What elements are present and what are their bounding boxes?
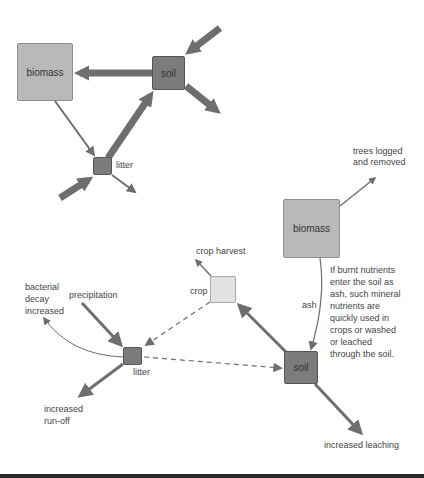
bottom-biomass-label: biomass	[293, 223, 330, 234]
arrow-bacterial-decay	[44, 318, 123, 357]
precipitation-label: precipitation	[69, 290, 118, 301]
arrow-crop-to-litter	[146, 302, 210, 345]
bottom-border-bar	[0, 474, 424, 478]
arrow-trees-logged	[340, 178, 375, 206]
burnt-nutrients-note: If burnt nutrients enter the soil as ash…	[330, 264, 401, 360]
bottom-biomass-box: biomass	[283, 199, 340, 258]
bottom-soil-label: soil	[293, 362, 308, 373]
bottom-soil-box: soil	[284, 351, 318, 384]
crop-box	[210, 276, 236, 303]
run-off-label: increased run-off	[44, 403, 83, 427]
arrow-biomass-to-litter	[55, 101, 94, 155]
arrow-leaching	[315, 384, 361, 433]
arrow-output-from-litter	[112, 175, 135, 192]
top-soil-label: soil	[161, 68, 176, 79]
increased-leaching-label: increased leaching	[324, 440, 399, 451]
arrow-litter-to-soil	[108, 96, 150, 158]
arrow-run-off	[80, 364, 123, 396]
bottom-litter-label: litter	[133, 367, 150, 378]
arrow-output-from-soil	[186, 86, 216, 110]
top-soil-box: soil	[152, 56, 185, 90]
crop-label: crop	[190, 286, 208, 297]
bottom-litter-box	[123, 347, 142, 365]
crop-harvest-label: crop harvest	[196, 246, 246, 257]
arrow-precipitation	[82, 303, 121, 345]
top-litter-box	[93, 157, 112, 175]
top-biomass-label: biomass	[26, 67, 63, 78]
arrow-soil-to-crop	[239, 305, 286, 352]
bacterial-decay-label: bacterial decay increased	[25, 281, 64, 317]
top-litter-label: litter	[116, 160, 133, 171]
top-biomass-box: biomass	[17, 43, 73, 101]
arrow-litter-to-soil-dashed	[144, 357, 281, 368]
arrow-crop-harvest	[196, 260, 211, 276]
arrow-input-to-litter	[60, 180, 88, 198]
arrow-input-to-soil	[190, 28, 220, 51]
trees-logged-label: trees logged and removed	[353, 146, 406, 168]
ash-label: ash	[302, 300, 317, 311]
